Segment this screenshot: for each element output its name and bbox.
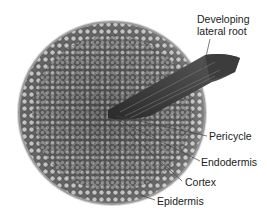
label-line-2: lateral root xyxy=(197,25,250,37)
label-developing-lateral-root: Developing lateral root xyxy=(197,13,250,37)
label-cortex: Cortex xyxy=(185,176,216,188)
label-line-1: Developing xyxy=(197,13,250,25)
label-endodermis: Endodermis xyxy=(201,156,257,168)
label-pericycle: Pericycle xyxy=(209,130,252,142)
label-epidermis: Epidermis xyxy=(157,195,204,207)
